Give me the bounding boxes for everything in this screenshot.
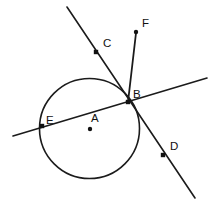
point-marker-f <box>134 30 138 34</box>
geometry-canvas: A B C D E F <box>0 0 216 209</box>
geometry-diagram: A B C D E F <box>0 0 216 209</box>
point-marker-a <box>88 127 92 131</box>
point-label-e: E <box>46 114 54 126</box>
secant-line-cd <box>67 7 195 198</box>
point-label-f: F <box>142 17 149 29</box>
point-label-d: D <box>170 140 178 152</box>
point-label-c: C <box>103 37 111 49</box>
point-marker-b <box>126 100 130 104</box>
point-marker-e <box>40 124 44 128</box>
point-marker-d <box>161 153 165 157</box>
point-label-a: A <box>91 112 99 124</box>
point-label-b: B <box>133 88 141 100</box>
point-marker-c <box>94 50 98 54</box>
